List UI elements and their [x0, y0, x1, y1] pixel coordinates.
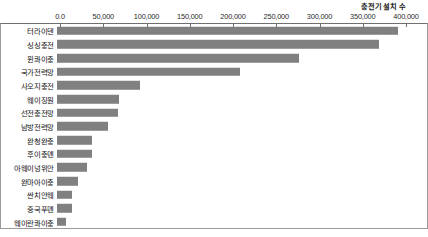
x-axis-tick-label: 0.0: [55, 12, 65, 21]
category-label: 남방전력망: [0, 121, 57, 132]
x-axis-tick-mark: [103, 23, 104, 27]
bar-track: [57, 120, 428, 134]
bar-row: 싱싱충전: [0, 38, 428, 52]
category-label: 터라이덴: [0, 25, 57, 36]
x-axis-tick-label: 150,000: [177, 12, 202, 21]
category-label: 아웨이넝위안: [0, 162, 57, 173]
x-axis-tick-label: 250,000: [264, 12, 289, 21]
bar-row: 싼치안웨: [0, 188, 428, 202]
bar-row: 완마아이충: [0, 174, 428, 188]
category-label: 웨이란콰이충: [0, 217, 57, 228]
bar: [57, 81, 140, 89]
bar-track: [57, 147, 428, 161]
bar: [57, 177, 78, 185]
bar-track: [57, 24, 428, 38]
bar: [57, 68, 240, 76]
bar: [57, 204, 72, 212]
x-axis-tick-mark: [60, 23, 61, 27]
bar: [57, 163, 87, 171]
bar: [57, 54, 299, 62]
bar: [57, 122, 108, 130]
category-label: 싼치안웨: [0, 189, 57, 200]
bar-track: [57, 174, 428, 188]
bar-track: [57, 92, 428, 106]
bar-track: [57, 51, 428, 65]
x-axis-tick-mark: [320, 23, 321, 27]
bar-row: 국가전력망: [0, 65, 428, 79]
category-label: 사오지충전: [0, 80, 57, 91]
x-axis-tick-label: 300,000: [307, 12, 332, 21]
bar: [57, 109, 118, 117]
chart-container: 충전기 설치 수 0.050,000100,000150,000200,0002…: [0, 0, 428, 237]
category-label: 선전충전망: [0, 107, 57, 118]
bar-row: 사오지충전: [0, 79, 428, 93]
bar-row: 중국푸뎬: [0, 202, 428, 216]
bar: [57, 190, 72, 198]
bar-track: [57, 202, 428, 216]
x-axis-tick-mark: [276, 23, 277, 27]
category-label: 국가전력망: [0, 66, 57, 77]
bar-rows: 터라이덴싱싱충전윈콰이충국가전력망사오지충전웨이징원선전충전망남방전력망완청완충…: [0, 24, 428, 229]
x-axis-tick-mark: [363, 23, 364, 27]
category-label: 싱싱충전: [0, 39, 57, 50]
category-label: 윈콰이충: [0, 53, 57, 64]
x-axis-tick-labels: 0.050,000100,000150,000200,000250,000300…: [0, 12, 428, 23]
bar-track: [57, 161, 428, 175]
bar: [57, 40, 379, 48]
x-axis-tick-label: 50,000: [93, 12, 114, 21]
bar-row: 웨이란콰이충: [0, 215, 428, 229]
bar-row: 남방전력망: [0, 120, 428, 134]
bar: [57, 136, 92, 144]
bar-row: 선전충전망: [0, 106, 428, 120]
bar-track: [57, 79, 428, 93]
bar-row: 웨이징원: [0, 92, 428, 106]
category-label: 후이충뎬: [0, 148, 57, 159]
category-label: 완청완충: [0, 135, 57, 146]
category-label: 완마아이충: [0, 176, 57, 187]
x-axis-tick-label: 200,000: [220, 12, 245, 21]
bar-track: [57, 38, 428, 52]
bar: [57, 27, 398, 35]
x-axis-tick-mark: [147, 23, 148, 27]
bar-row: 윈콰이충: [0, 51, 428, 65]
bar: [57, 95, 119, 103]
bar-track: [57, 215, 428, 229]
x-axis-tick-label: 100,000: [134, 12, 159, 21]
bar-row: 아웨이넝위안: [0, 161, 428, 175]
x-axis-tick-mark: [190, 23, 191, 27]
x-axis-tick-label: 400,000: [393, 12, 418, 21]
x-axis-tick-mark: [406, 23, 407, 27]
x-axis-title: 충전기 설치 수: [361, 1, 406, 11]
bar-track: [57, 65, 428, 79]
bar: [57, 150, 92, 158]
x-axis-tick-label: 350,000: [350, 12, 375, 21]
bar: [57, 218, 66, 226]
bar-row: 후이충뎬: [0, 147, 428, 161]
category-label: 웨이징원: [0, 94, 57, 105]
bar-row: 터라이덴: [0, 24, 428, 38]
x-axis-tick-mark: [233, 23, 234, 27]
bar-track: [57, 106, 428, 120]
bar-row: 완청완충: [0, 133, 428, 147]
bar-track: [57, 188, 428, 202]
category-label: 중국푸뎬: [0, 203, 57, 214]
bar-track: [57, 133, 428, 147]
